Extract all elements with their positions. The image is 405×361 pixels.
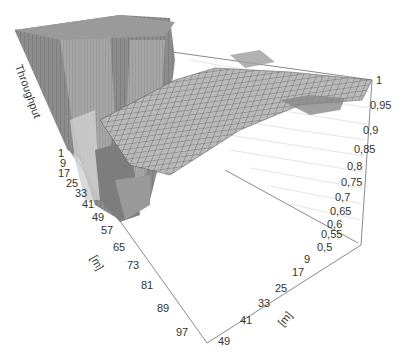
svg-text:49: 49 xyxy=(218,335,230,347)
svg-text:0,7: 0,7 xyxy=(335,191,350,203)
svg-text:57: 57 xyxy=(101,224,113,236)
svg-text:81: 81 xyxy=(141,279,153,291)
x-axis-label: [m] xyxy=(88,253,106,272)
surface-plot: 1 0,95 0,9 0,85 0,8 0,75 0,7 0,65 0,6 0,… xyxy=(0,0,405,361)
svg-text:65: 65 xyxy=(113,241,125,253)
svg-text:73: 73 xyxy=(127,259,139,271)
svg-text:41: 41 xyxy=(240,314,252,326)
svg-text:89: 89 xyxy=(157,302,169,314)
svg-text:49: 49 xyxy=(92,211,104,223)
svg-text:0,55: 0,55 xyxy=(321,228,342,240)
svg-text:17: 17 xyxy=(292,266,304,278)
svg-text:97: 97 xyxy=(176,326,188,338)
svg-text:0,8: 0,8 xyxy=(347,160,362,172)
svg-text:0,85: 0,85 xyxy=(354,143,375,155)
svg-text:0,5: 0,5 xyxy=(317,241,332,253)
y-axis-ticks: 9 17 25 33 41 49 xyxy=(218,253,310,347)
svg-text:0,75: 0,75 xyxy=(341,176,362,188)
y-axis-label: [m] xyxy=(275,309,294,328)
svg-text:1: 1 xyxy=(376,74,382,86)
svg-text:25: 25 xyxy=(275,282,287,294)
svg-text:41: 41 xyxy=(82,198,94,210)
svg-text:0,95: 0,95 xyxy=(370,99,391,111)
svg-text:9: 9 xyxy=(304,253,310,265)
svg-text:33: 33 xyxy=(258,297,270,309)
svg-text:0,65: 0,65 xyxy=(330,205,351,217)
svg-text:0,9: 0,9 xyxy=(363,124,378,136)
